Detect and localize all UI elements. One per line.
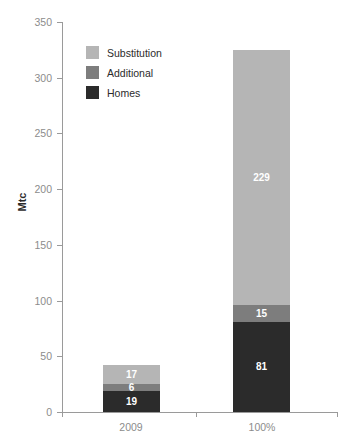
y-tick-label-200: 200 [10,184,52,194]
y-tick-mark-250 [57,133,63,134]
x-tick-label-2009: 2009 [91,421,171,433]
bar-label-100pct-additional: 15 [256,308,267,319]
y-tick-label-50: 50 [10,351,52,361]
bar-2009-segment-homes[interactable]: 19 [103,391,160,412]
legend-swatch-substitution-icon [86,46,99,59]
y-tick-mark-50 [57,356,63,357]
bar-100pct-segment-homes[interactable]: 81 [233,322,290,412]
legend-swatch-homes-icon [86,86,99,99]
y-tick-mark-100 [57,301,63,302]
x-tick-mark-middle [196,412,197,417]
bar-100pct-segment-substitution[interactable]: 229 [233,50,290,305]
legend-swatch-additional-icon [86,66,99,79]
legend-item-homes[interactable]: Homes [86,84,162,101]
y-tick-label-150: 150 [10,240,52,250]
legend-item-additional[interactable]: Additional [86,64,162,81]
bar-label-100pct-homes: 81 [256,361,267,372]
y-tick-mark-300 [57,78,63,79]
bar-100pct-segment-additional[interactable]: 15 [233,305,290,322]
legend: Substitution Additional Homes [86,44,162,104]
y-axis-line [62,22,63,412]
x-tick-mark-start [62,412,63,417]
y-tick-label-300: 300 [10,73,52,83]
x-axis-line [62,412,338,413]
bar-2009-segment-additional[interactable]: 6 [103,384,160,391]
y-tick-label-350: 350 [10,17,52,27]
legend-label-homes: Homes [107,87,140,99]
y-tick-mark-150 [57,245,63,246]
x-tick-label-100pct: 100% [222,421,302,433]
legend-label-additional: Additional [107,67,153,79]
bar-label-2009-homes: 19 [126,396,137,407]
legend-item-substitution[interactable]: Substitution [86,44,162,61]
stacked-bar-chart: Mtc 350 300 250 200 150 100 50 0 2009 10… [0,0,343,448]
y-tick-label-250: 250 [10,128,52,138]
bar-label-2009-substitution: 17 [126,369,137,380]
legend-label-substitution: Substitution [107,47,162,59]
y-tick-mark-350 [57,22,63,23]
y-tick-mark-200 [57,189,63,190]
y-tick-label-100: 100 [10,296,52,306]
x-tick-mark-end [337,412,338,417]
y-tick-label-0: 0 [10,407,52,417]
bar-label-100pct-substitution: 229 [253,172,270,183]
